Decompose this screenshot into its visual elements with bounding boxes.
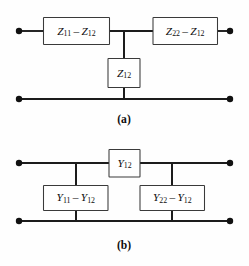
component-z11-minus-z12[interactable]: Z11 – Z12 <box>44 18 110 45</box>
terminal-dot-a-port2-bottom[interactable] <box>227 96 233 102</box>
terminal-dot-b-port2-top[interactable] <box>227 160 233 166</box>
terminal-dot-b-port1-bottom[interactable] <box>16 218 22 224</box>
component-z12-shunt[interactable]: Z12 <box>108 59 140 88</box>
component-y22-minus-y12[interactable]: Y22 – Y12 <box>140 186 205 211</box>
panel-a-t-network: Z11 – Z12 Z22 – Z12 Z12 <box>16 18 233 126</box>
terminal-dot-b-port2-bottom[interactable] <box>227 218 233 224</box>
component-y11-minus-y12[interactable]: Y11 – Y12 <box>44 186 109 211</box>
component-z22-minus-z12[interactable]: Z22 – Z12 <box>153 18 218 45</box>
panel-caption-a: (a) <box>117 113 131 126</box>
terminal-dot-b-port1-top[interactable] <box>16 160 22 166</box>
panel-b-pi-network: Y12 Y11 – Y12 Y22 – Y12 <box>16 150 233 252</box>
terminal-dot-a-port2-top[interactable] <box>227 28 233 34</box>
circuit-diagram-canvas: Z11 – Z12 Z22 – Z12 Z12 <box>0 0 249 266</box>
terminal-dot-a-port1-top[interactable] <box>16 28 22 34</box>
two-port-equivalent-circuits-figure: Z11 – Z12 Z22 – Z12 Z12 <box>0 0 249 266</box>
terminal-dot-a-port1-bottom[interactable] <box>16 96 22 102</box>
component-y12-series[interactable]: Y12 <box>109 150 140 178</box>
panel-caption-b: (b) <box>117 239 131 252</box>
